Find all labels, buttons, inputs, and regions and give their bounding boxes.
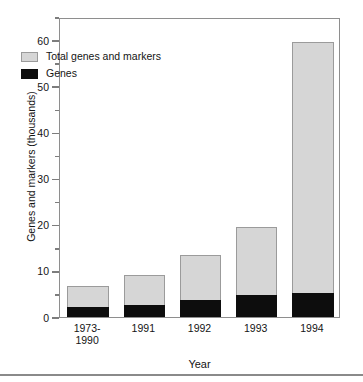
bar-group[interactable] <box>292 17 334 317</box>
y-tick-major <box>52 179 59 181</box>
legend-swatch-total-icon <box>21 52 38 62</box>
legend-swatch-genes-icon <box>21 69 38 79</box>
chart-legend: Total genes and markers Genes <box>21 50 161 84</box>
y-tick-minor <box>55 17 59 19</box>
bar-group[interactable] <box>236 17 278 317</box>
y-tick-minor <box>55 248 59 250</box>
y-tick-minor <box>55 294 59 296</box>
y-tick-label: 0 <box>43 313 49 324</box>
legend-item-genes: Genes <box>21 67 161 80</box>
legend-label-genes: Genes <box>46 67 77 80</box>
y-tick-label: 10 <box>37 266 49 277</box>
y-tick-major <box>52 133 59 135</box>
x-tick-label-line: 1994 <box>276 323 348 335</box>
y-tick-label: 20 <box>37 220 49 231</box>
bar-group[interactable] <box>180 17 222 317</box>
y-tick-label: 50 <box>37 82 49 93</box>
y-tick-major <box>52 40 59 42</box>
y-tick-label: 60 <box>37 36 49 47</box>
y-tick-label: 40 <box>37 128 49 139</box>
x-tick-label-line: 1990 <box>51 335 123 347</box>
bar-total-genes-and-markers[interactable] <box>292 42 334 317</box>
y-tick-minor <box>55 156 59 158</box>
x-tick-label: 1994 <box>276 323 348 335</box>
bar-genes[interactable] <box>180 300 222 317</box>
bar-genes[interactable] <box>67 307 109 317</box>
y-axis-title: Genes and markers (thousands) <box>26 57 37 277</box>
y-tick-major <box>52 86 59 88</box>
bottom-divider <box>0 374 363 376</box>
bar-genes[interactable] <box>124 305 166 317</box>
y-tick-major <box>52 225 59 227</box>
bar-genes[interactable] <box>236 295 278 317</box>
y-tick-minor <box>55 202 59 204</box>
y-tick-major <box>52 317 59 319</box>
legend-item-total: Total genes and markers <box>21 50 161 63</box>
y-tick-minor <box>55 110 59 112</box>
legend-label-total: Total genes and markers <box>46 50 161 63</box>
x-axis-title: Year <box>59 358 340 370</box>
bar-chart-figure: Genes and markers (thousands) Year Total… <box>0 0 363 382</box>
y-tick-major <box>52 271 59 273</box>
y-tick-label: 30 <box>37 174 49 185</box>
bar-genes[interactable] <box>292 293 334 317</box>
